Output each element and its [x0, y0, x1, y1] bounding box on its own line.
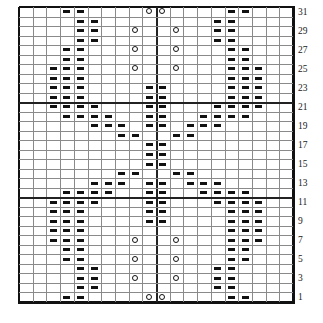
purl-stitch-symbol — [255, 201, 262, 204]
purl-stitch-symbol — [77, 20, 84, 23]
purl-stitch-symbol — [63, 220, 70, 223]
purl-stitch-symbol — [50, 86, 57, 89]
purl-stitch-symbol — [63, 48, 70, 51]
purl-stitch-symbol — [91, 20, 98, 23]
purl-stitch-symbol — [63, 258, 70, 261]
purl-stitch-symbol — [118, 124, 125, 127]
purl-stitch-symbol — [50, 67, 57, 70]
purl-stitch-symbol — [63, 210, 70, 213]
purl-stitch-symbol — [77, 29, 84, 32]
purl-stitch-symbol — [146, 191, 153, 194]
purl-stitch-symbol — [146, 163, 153, 166]
purl-stitch-symbol — [105, 191, 112, 194]
purl-stitch-symbol — [77, 58, 84, 61]
row-number-label: 21 — [298, 102, 308, 112]
purl-stitch-symbol — [50, 77, 57, 80]
purl-stitch-symbol — [242, 239, 249, 242]
purl-stitch-symbol — [228, 248, 235, 251]
purl-stitch-symbol — [118, 134, 125, 137]
purl-stitch-symbol — [187, 124, 194, 127]
purl-stitch-symbol — [228, 258, 235, 261]
purl-stitch-symbol — [77, 105, 84, 108]
purl-stitch-symbol — [255, 86, 262, 89]
grid-line-vertical — [279, 7, 280, 302]
purl-stitch-symbol — [77, 286, 84, 289]
purl-stitch-symbol — [118, 172, 125, 175]
purl-stitch-symbol — [228, 201, 235, 204]
row-number-label: 29 — [298, 26, 308, 36]
purl-stitch-symbol — [228, 229, 235, 232]
grid-line-vertical — [101, 7, 102, 302]
purl-stitch-symbol — [50, 96, 57, 99]
purl-stitch-symbol — [228, 10, 235, 13]
purl-stitch-symbol — [255, 210, 262, 213]
purl-stitch-symbol — [255, 229, 262, 232]
purl-stitch-symbol — [159, 115, 166, 118]
purl-stitch-symbol — [159, 86, 166, 89]
row-number-label: 19 — [298, 121, 308, 131]
yarn-over-symbol — [132, 256, 138, 262]
yarn-over-symbol — [132, 27, 138, 33]
purl-stitch-symbol — [91, 124, 98, 127]
grid-line-horizontal — [19, 264, 293, 265]
purl-stitch-symbol — [228, 48, 235, 51]
yarn-over-symbol — [173, 256, 179, 262]
purl-stitch-symbol — [200, 124, 207, 127]
purl-stitch-symbol — [214, 29, 221, 32]
purl-stitch-symbol — [63, 296, 70, 299]
purl-stitch-symbol — [146, 143, 153, 146]
purl-stitch-symbol — [77, 115, 84, 118]
purl-stitch-symbol — [255, 77, 262, 80]
row-number-label: 31 — [298, 7, 308, 17]
grid-line-horizontal — [19, 150, 293, 151]
grid-line-vertical — [238, 7, 239, 302]
purl-stitch-symbol — [228, 220, 235, 223]
grid-line-vertical — [74, 7, 75, 302]
purl-stitch-symbol — [77, 239, 84, 242]
grid-line-horizontal — [19, 17, 293, 18]
purl-stitch-symbol — [132, 172, 139, 175]
purl-stitch-symbol — [214, 124, 221, 127]
grid-line-horizontal — [19, 273, 293, 274]
grid-line-horizontal — [19, 216, 293, 217]
purl-stitch-symbol — [132, 134, 139, 137]
row-number-label: 7 — [298, 235, 303, 245]
purl-stitch-symbol — [91, 286, 98, 289]
row-number-label: 25 — [298, 64, 308, 74]
yarn-over-symbol — [132, 275, 138, 281]
yarn-over-symbol — [146, 294, 152, 300]
yarn-over-symbol — [173, 27, 179, 33]
purl-stitch-symbol — [242, 77, 249, 80]
grid-line-horizontal — [19, 64, 293, 65]
purl-stitch-symbol — [228, 86, 235, 89]
purl-stitch-symbol — [77, 296, 84, 299]
purl-stitch-symbol — [146, 96, 153, 99]
grid-line-vertical — [183, 7, 184, 302]
grid-line-vertical — [252, 7, 253, 302]
purl-stitch-symbol — [228, 67, 235, 70]
grid-line-horizontal — [19, 131, 293, 132]
purl-stitch-symbol — [159, 153, 166, 156]
yarn-over-symbol — [132, 237, 138, 243]
grid-line-horizontal — [19, 83, 293, 84]
yarn-over-symbol — [173, 46, 179, 52]
grid-line-vertical — [115, 7, 116, 302]
purl-stitch-symbol — [242, 220, 249, 223]
purl-stitch-symbol — [77, 248, 84, 251]
purl-stitch-symbol — [242, 105, 249, 108]
purl-stitch-symbol — [255, 67, 262, 70]
grid-line-horizontal — [19, 74, 293, 75]
purl-stitch-symbol — [200, 182, 207, 185]
purl-stitch-symbol — [159, 191, 166, 194]
grid-line-horizontal — [19, 188, 293, 189]
grid-line-vertical — [60, 7, 61, 302]
grid-line-horizontal — [19, 207, 293, 208]
purl-stitch-symbol — [63, 115, 70, 118]
purl-stitch-symbol — [146, 153, 153, 156]
grid-line-vertical — [129, 7, 130, 302]
purl-stitch-symbol — [63, 77, 70, 80]
purl-stitch-symbol — [159, 182, 166, 185]
purl-stitch-symbol — [214, 182, 221, 185]
grid-line-horizontal — [19, 245, 293, 246]
purl-stitch-symbol — [255, 239, 262, 242]
